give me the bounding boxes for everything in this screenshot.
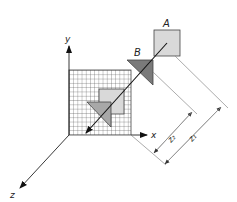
label-y-axis: y bbox=[64, 34, 71, 44]
label-z1: z₁ bbox=[186, 132, 198, 144]
label-a: A bbox=[162, 18, 170, 29]
projection-diagram: A B y x z z₂ z₁ bbox=[0, 0, 237, 202]
label-x-axis: x bbox=[150, 130, 157, 140]
label-z2: z₂ bbox=[165, 132, 178, 145]
z-axis bbox=[20, 135, 69, 188]
label-b: B bbox=[134, 47, 141, 58]
label-z-axis: z bbox=[9, 190, 15, 200]
